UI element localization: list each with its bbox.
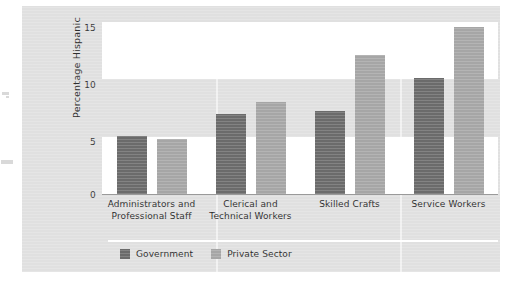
category-label-line-1: Service Workers [399,198,498,210]
y-tick-15: 15 [70,23,96,33]
scan-artifact [6,96,9,98]
x-axis-line [102,194,498,195]
bar-government-skilled-crafts[interactable] [315,111,345,194]
bar-group-clerical [201,22,300,194]
bar-private-service-workers[interactable] [454,27,484,194]
x-axis-category-labels: Administrators and Professional Staff Cl… [102,198,498,222]
y-tick-0: 0 [70,190,96,200]
plot-area [102,22,498,194]
figure-page: Percentage Hispanic 15 10 5 0 [0,0,508,286]
bar-private-administrators[interactable] [157,139,187,194]
category-label-skilled-crafts: Skilled Crafts [300,198,399,222]
category-label-service-workers: Service Workers [399,198,498,222]
y-tick-5: 5 [70,137,96,147]
category-label-line-1: Skilled Crafts [300,198,399,210]
bar-group-administrators [102,22,201,194]
bar-government-clerical[interactable] [216,114,246,194]
category-label-line-2: Technical Workers [201,210,300,222]
scan-artifact [1,160,13,164]
category-label-administrators: Administrators and Professional Staff [102,198,201,222]
legend-item-private-sector[interactable]: Private Sector [211,249,292,259]
bar-government-administrators[interactable] [117,136,147,194]
chart-panel: Percentage Hispanic 15 10 5 0 [22,6,500,272]
y-axis-tick-labels: 15 10 5 0 [68,6,96,286]
category-label-line-2: Professional Staff [102,210,201,222]
scan-artifact [2,92,9,95]
bar-group-skilled-crafts [300,22,399,194]
category-label-line-1: Administrators and [102,198,201,210]
category-label-line-1: Clerical and [201,198,300,210]
legend-label-government: Government [136,249,193,259]
legend-label-private-sector: Private Sector [227,249,292,259]
chart-legend: Government Private Sector [120,249,292,259]
bar-groups [102,22,498,194]
bar-group-service-workers [399,22,498,194]
bar-private-skilled-crafts[interactable] [355,55,385,194]
bar-government-service-workers[interactable] [414,78,444,194]
bar-private-clerical[interactable] [256,102,286,194]
legend-swatch-private-sector [211,249,221,259]
legend-swatch-government [120,249,130,259]
legend-item-government[interactable]: Government [120,249,193,259]
y-tick-10: 10 [70,80,96,90]
legend-separator-rule [108,240,498,242]
category-label-clerical: Clerical and Technical Workers [201,198,300,222]
